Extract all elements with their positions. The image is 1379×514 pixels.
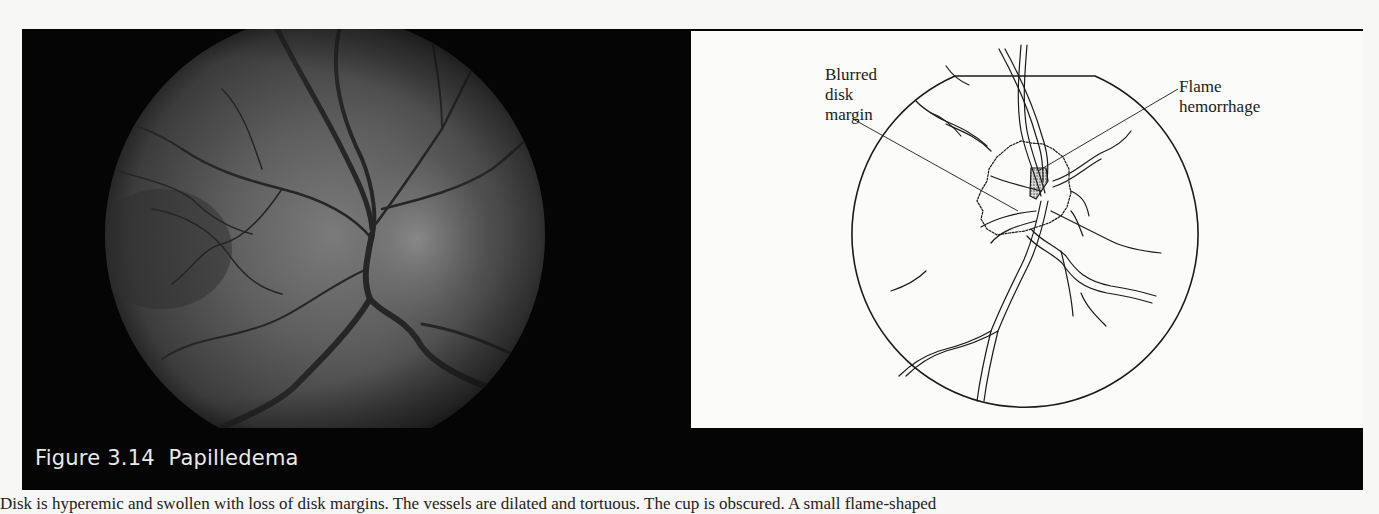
body-paragraph: Disk is hyperemic and swollen with loss … — [0, 494, 1379, 514]
figure-frame: Blurred disk margin Flame hemorrhage Fig… — [22, 29, 1363, 490]
fundus-diagram-icon — [691, 31, 1363, 428]
fundus-photo-icon — [22, 29, 690, 428]
fundus-photo — [22, 29, 690, 428]
caption-band: Figure 3.14 Papilledema — [22, 428, 1363, 490]
blurred-disk-margin-label: Blurred disk margin — [825, 65, 877, 125]
figure-caption: Figure 3.14 Papilledema — [35, 446, 299, 470]
fundus-diagram: Blurred disk margin Flame hemorrhage — [691, 31, 1363, 428]
flame-hemorrhage-label: Flame hemorrhage — [1179, 77, 1260, 117]
